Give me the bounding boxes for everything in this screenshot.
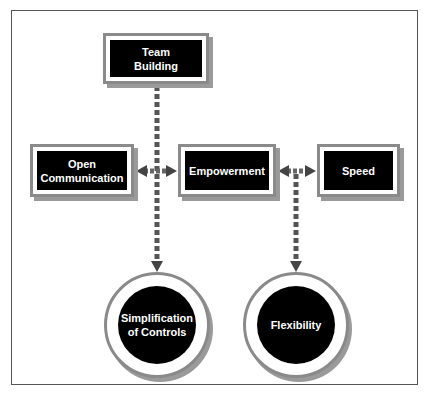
node-label: Open Communication [37,151,127,190]
node-label: Speed [324,151,393,190]
arrowhead-down-icon [151,261,163,272]
arrowhead-down-icon [290,261,302,272]
arrowhead-right-icon [166,165,177,177]
node-flexibility: Flexibility [243,272,349,378]
node-speed: Speed [317,144,400,197]
node-label: Simplification of Controls [118,286,196,364]
arrowhead-left-icon [278,165,289,177]
arrowhead-left-icon [136,165,147,177]
arrowhead-right-icon [305,165,316,177]
node-open-communication: Open Communication [30,144,134,197]
node-label: Flexibility [257,286,335,364]
node-label: Team Building [110,40,202,77]
connector-lines [0,0,428,398]
node-label: Empowerment [185,151,269,190]
node-empowerment: Empowerment [178,144,276,197]
node-team-building: Team Building [103,33,209,84]
node-simplification-of-controls: Simplification of Controls [104,272,210,378]
